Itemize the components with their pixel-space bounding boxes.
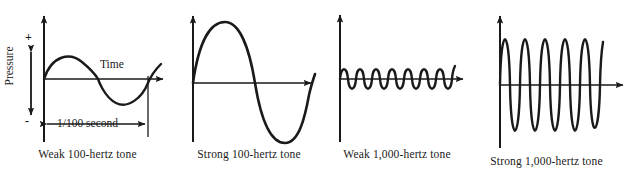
weak-1000-hertz-plot (323, 0, 471, 148)
panel-weak-1000-hertz: Weak 1,000-hertz tone (323, 0, 471, 175)
caption-strong-100-hertz: Strong 100-hertz tone (175, 148, 323, 160)
panel-weak-100-hertz: Pressure Time + - 1/100 second Weak 100-… (0, 0, 175, 175)
caption-strong-1000-hertz: Strong 1,000-hertz tone (461, 155, 632, 167)
strong-100-hertz-plot (175, 0, 323, 148)
panel-strong-1000-hertz: Strong 1,000-hertz tone (461, 0, 632, 175)
waveform-figure: Pressure Time + - 1/100 second Weak 100-… (0, 0, 632, 175)
pressure-positive-sign: + (25, 30, 32, 45)
caption-weak-100-hertz: Weak 100-hertz tone (0, 148, 175, 160)
duration-label: 1/100 second (57, 117, 118, 129)
caption-weak-1000-hertz: Weak 1,000-hertz tone (323, 148, 471, 160)
panel-strong-100-hertz: Strong 100-hertz tone (175, 0, 323, 175)
waveform-path (340, 66, 455, 89)
x-axis-label-time: Time (100, 58, 124, 70)
y-axis-label-pressure: Pressure (3, 35, 15, 97)
strong-1000-hertz-plot (461, 0, 632, 155)
pressure-negative-sign: - (25, 114, 29, 129)
